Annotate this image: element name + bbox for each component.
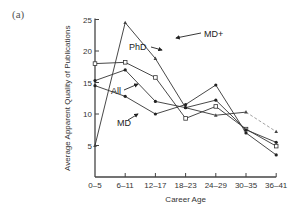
y-axis-title: Average Apparent Quality of Publications: [63, 26, 72, 171]
data-point: [214, 99, 217, 102]
x-tick-label: 36–41: [265, 181, 288, 190]
y-tick-label: 10: [83, 110, 92, 119]
data-point: [244, 131, 247, 134]
data-point: [275, 141, 278, 144]
data-point: [274, 130, 278, 133]
data-point: [123, 21, 127, 24]
x-axis-title: Career Age: [165, 195, 206, 204]
label-arrow: [176, 33, 201, 38]
data-point: [154, 76, 158, 80]
series-label: MD+: [204, 29, 223, 39]
x-tick-label: 18–23: [174, 181, 197, 190]
data-point: [275, 153, 278, 156]
x-tick-label: 6–11: [117, 181, 135, 190]
x-tick-label: 24–29: [205, 181, 228, 190]
data-point: [184, 117, 188, 121]
x-tick-label: 30–35: [235, 181, 258, 190]
data-point: [123, 61, 127, 65]
data-point: [184, 106, 187, 109]
label-arrow: [151, 47, 162, 50]
data-point: [124, 68, 127, 71]
series-label: All: [111, 86, 121, 96]
data-point: [93, 84, 96, 87]
y-tick-label: 5: [88, 142, 93, 151]
x-tick-label: 0–5: [88, 181, 102, 190]
data-point: [214, 105, 218, 109]
data-point: [93, 79, 96, 82]
data-point: [93, 62, 97, 66]
label-arrow: [128, 114, 138, 120]
data-point: [274, 144, 278, 148]
y-tick-label: 25: [83, 16, 92, 25]
y-tick-label: 20: [83, 47, 92, 56]
label-arrow: [124, 84, 138, 90]
series-label: PhD: [129, 42, 147, 52]
x-tick-label: 12–17: [144, 181, 167, 190]
line-chart: 5101520250–56–1112–1718–2324–2930–3536–4…: [0, 0, 304, 212]
data-point: [214, 83, 217, 86]
data-point: [154, 112, 157, 115]
data-point: [124, 95, 127, 98]
data-point: [184, 103, 187, 106]
y-tick-label: 15: [83, 79, 92, 88]
data-point: [154, 100, 157, 103]
